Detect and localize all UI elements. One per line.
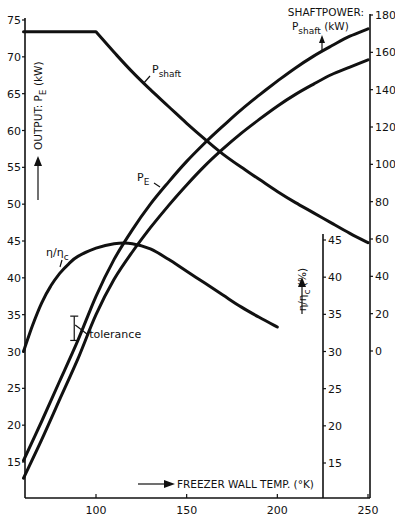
pe-lower-curve <box>24 60 369 478</box>
right-tick-label: 180 <box>375 9 395 22</box>
left-tick-label: 30 <box>7 346 21 359</box>
labels-group: OUTPUT: PE (kW)η/ηc (%)SHAFTPOWER:Pshaft… <box>32 6 364 490</box>
eta-tick-label: 20 <box>328 420 342 433</box>
eta-tick-label: 25 <box>328 383 342 396</box>
left-tick-label: 60 <box>7 125 21 138</box>
x-axis-title: FREEZER WALL TEMP. (°K) <box>177 478 314 490</box>
left-tick-label: 75 <box>7 14 21 27</box>
pe-upper-curve <box>24 29 369 461</box>
eta-tick-label: 45 <box>328 234 342 247</box>
left-tick-label: 25 <box>7 382 21 395</box>
left-axis-arrowhead-icon <box>34 156 42 166</box>
right-tick-label: 0 <box>375 345 382 358</box>
left-tick-label: 40 <box>7 272 21 285</box>
eta-curve <box>24 243 278 351</box>
right-axis-title-line2: Pshaft (kW) <box>292 20 349 36</box>
ticks-group: 1001502002501520253035404550556065707515… <box>7 9 395 517</box>
left-tick-label: 55 <box>7 161 21 174</box>
left-tick-label: 50 <box>7 198 21 211</box>
tolerance-label: tolerance <box>89 328 141 341</box>
right-tick-label: 120 <box>375 121 395 134</box>
left-tick-label: 45 <box>7 235 21 248</box>
eta-tick-label: 15 <box>328 457 342 470</box>
right-tick-label: 60 <box>375 233 389 246</box>
eta-axis-title-text: η/ηc (%) <box>296 268 312 311</box>
x-tick-label: 100 <box>86 504 107 517</box>
x-tick-label: 200 <box>267 504 288 517</box>
pshaft-label: Pshaft <box>152 63 182 79</box>
right-axis-arrowhead-icon <box>319 35 325 43</box>
x-tick-label: 150 <box>176 504 197 517</box>
eta-tick-label: 35 <box>328 308 342 321</box>
eta-leader <box>60 260 62 267</box>
right-tick-label: 80 <box>375 196 389 209</box>
left-tick-label: 70 <box>7 51 21 64</box>
right-tick-label: 160 <box>375 46 395 59</box>
left-tick-label: 65 <box>7 88 21 101</box>
left-tick-label: 35 <box>7 309 21 322</box>
left-tick-label: 15 <box>7 456 21 469</box>
right-tick-label: 140 <box>375 84 395 97</box>
left-tick-label: 20 <box>7 419 21 432</box>
eta-tick-label: 40 <box>328 271 342 284</box>
right-tick-label: 20 <box>375 308 389 321</box>
pshaft-leader <box>143 76 150 84</box>
right-tick-label: 100 <box>375 158 395 171</box>
left-axis-title-text: OUTPUT: PE (kW) <box>32 61 48 150</box>
x-tick-label: 250 <box>358 504 379 517</box>
eta-axis-title: η/ηc (%) <box>296 268 312 311</box>
curves-group <box>23 29 368 478</box>
right-tick-label: 40 <box>375 270 389 283</box>
pshaft-curve <box>24 32 369 243</box>
pe-leader <box>154 183 160 187</box>
eta-tick-label: 30 <box>328 346 342 359</box>
x-axis-arrowhead-icon <box>164 480 175 488</box>
pe-label: PE <box>137 171 150 187</box>
right-axis-title-line1: SHAFTPOWER: <box>288 6 364 18</box>
left-axis-title: OUTPUT: PE (kW) <box>32 61 48 150</box>
chart: 1001502002501520253035404550556065707515… <box>0 0 395 522</box>
eta-label: η/ηc <box>46 246 69 262</box>
